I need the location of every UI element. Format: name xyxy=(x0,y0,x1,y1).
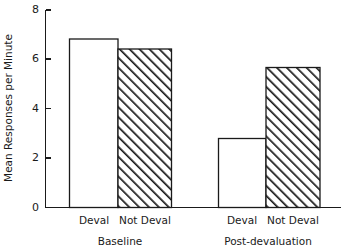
bar-baseline-not-deval[interactable] xyxy=(118,49,172,208)
group-label-baseline: Baseline xyxy=(98,235,143,247)
category-label-post-not-deval: Not Deval xyxy=(267,214,319,226)
y-tick-label-6: 6 xyxy=(32,52,39,65)
category-label-baseline-not-deval: Not Deval xyxy=(119,214,171,226)
group-label-post-devaluation: Post-devaluation xyxy=(224,235,312,247)
y-tick-label-0: 0 xyxy=(32,201,39,214)
y-axis-label: Mean Responses per Minute xyxy=(2,34,14,182)
category-label-baseline-deval: Deval xyxy=(79,214,109,226)
y-tick-label-4: 4 xyxy=(32,102,39,115)
y-tick-label-2: 2 xyxy=(32,151,39,164)
bar-post-devaluation-not-deval[interactable] xyxy=(266,68,320,208)
category-label-post-deval: Deval xyxy=(227,214,257,226)
chart-page: Mean Responses per Minute 0 2 4 6 8 Deva… xyxy=(0,0,345,252)
bar-chart: Mean Responses per Minute 0 2 4 6 8 Deva… xyxy=(0,0,345,252)
bar-baseline-deval[interactable] xyxy=(70,39,119,208)
y-tick-label-8: 8 xyxy=(32,3,39,16)
bar-post-devaluation-deval[interactable] xyxy=(219,139,267,208)
